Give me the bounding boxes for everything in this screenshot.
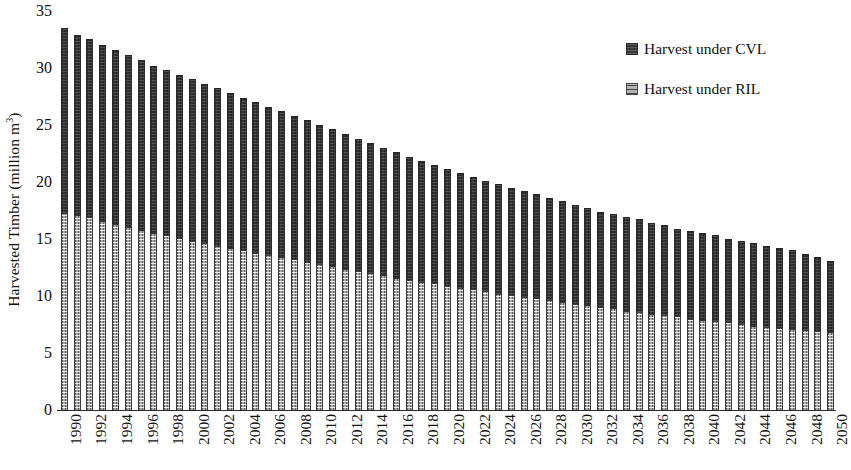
bar-segment-ril [367,273,374,411]
bar-segment-ril [584,305,591,411]
bar-group [138,12,145,411]
bar-segment-ril [661,315,668,411]
bar-segment-ril [252,253,259,411]
legend-swatch-ril [626,83,638,95]
bar-segment-ril [406,280,413,411]
bar-segment-ril [278,257,285,411]
bar-group [584,12,591,411]
y-axis-tick-labels: 05101520253035 [22,0,56,420]
bar-segment-ril [291,259,298,411]
bar-group [393,12,400,411]
bar-segment-ril [559,302,566,411]
bar-group [380,12,387,411]
bar-segment-ril [150,233,157,411]
bar-segment-ril [227,248,234,411]
bar-group [597,12,604,411]
bar-group [521,12,528,411]
bar-segment-ril [482,291,489,411]
bar-group [406,12,413,411]
x-axis-tick-label: 1994 [118,414,136,445]
x-axis-tick-label: 2000 [195,414,213,445]
bar-group [559,12,566,411]
bar-segment-ril [495,294,502,411]
bar-segment-ril [431,283,438,411]
bar-group [227,12,234,411]
bar-segment-ril [316,264,323,411]
bar-segment-ril [521,297,528,411]
bar-group [495,12,502,411]
bar-segment-ril [712,321,719,411]
bar-group [444,12,451,411]
bar-segment-ril [444,286,451,411]
x-axis-tick-label: 2044 [756,414,774,445]
bar-segment-ril [508,295,515,411]
bar-group [150,12,157,411]
x-axis-tick-label: 2030 [578,414,596,445]
bar-segment-ril [725,322,732,411]
bar-segment-ril [329,266,336,411]
bar-segment-ril [572,304,579,411]
legend-swatch-cvl [626,43,638,55]
bar-segment-ril [240,250,247,411]
x-axis-tick-label: 2040 [705,414,723,445]
bar-group [470,12,477,411]
bar-segment-ril [457,288,464,411]
bar-segment-ril [189,241,196,411]
bar-segment-ril [814,331,821,411]
bar-segment-ril [163,235,170,411]
bar-segment-ril [265,255,272,411]
x-axis-tick-label: 2012 [348,414,366,445]
y-axis-tick-label: 35 [36,2,52,20]
bar-segment-ril [789,329,796,411]
bar-group [74,12,81,411]
y-axis-tick-label: 30 [36,59,52,77]
bar-segment-ril [393,278,400,411]
bar-segment-ril [125,227,132,411]
x-axis-tick-label: 2046 [782,414,800,445]
bar-segment-ril [827,332,834,411]
bar-segment-ril [699,320,706,411]
x-axis-tick-label: 2026 [527,414,545,445]
bar-group [99,12,106,411]
x-axis-tick-label: 1996 [144,414,162,445]
bar-segment-ril [763,327,770,411]
x-axis-tick-label: 2004 [246,414,264,445]
bar-segment-ril [546,300,553,411]
x-axis-tick-label: 2048 [808,414,826,445]
legend-item: Harvest under CVL [626,40,836,58]
y-axis-title-text: Harvested Timber (million m3) [3,113,22,307]
bar-segment-ril [636,312,643,411]
bar-group [508,12,515,411]
bar-segment-ril [380,275,387,411]
bar-segment-ril [112,224,119,411]
bar-group [189,12,196,411]
y-axis-tick-label: 25 [36,116,52,134]
y-axis-tick-label: 15 [36,230,52,248]
x-axis-tick-label: 2042 [731,414,749,445]
bar-segment-ril [342,269,349,412]
bar-group [355,12,362,411]
x-axis-tick-label: 2010 [322,414,340,445]
x-axis-tick-label: 2016 [399,414,417,445]
x-axis-tick-label: 2002 [220,414,238,445]
bar-segment-ril [470,289,477,411]
legend-item: Harvest under RIL [626,80,836,98]
bar-segment-ril [623,311,630,411]
bar-group [214,12,221,411]
x-axis-tick-label: 2028 [552,414,570,445]
bar-group [291,12,298,411]
bar-segment-ril [687,319,694,411]
bar-segment-ril [86,217,93,411]
legend-label: Harvest under CVL [644,40,766,58]
bar-group [278,12,285,411]
bar-segment-ril [138,230,145,411]
bar-group [329,12,336,411]
bar-segment-ril [214,246,221,411]
x-axis-tick-labels: 1990199219941996199820002002200420062008… [57,412,836,470]
bar-group [482,12,489,411]
bar-group [316,12,323,411]
bar-segment-ril [61,213,68,411]
bar-group [86,12,93,411]
bar-segment-ril [738,324,745,411]
